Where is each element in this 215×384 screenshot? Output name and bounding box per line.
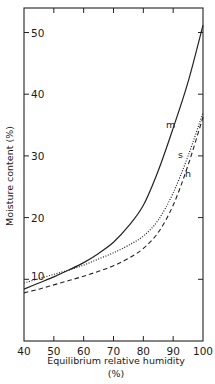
- labels: msh: [166, 119, 191, 179]
- y-tick-label: 20: [31, 212, 44, 224]
- series-label-m: m: [166, 119, 175, 130]
- y-tick-label: 30: [31, 150, 44, 162]
- y-axis-label: Moisture content (%): [4, 126, 15, 226]
- y-tick-label: 40: [31, 88, 44, 100]
- axis-ticks: 4050607080901002030405010: [17, 8, 213, 357]
- plot-frame: [24, 8, 203, 341]
- series-label-s: s: [178, 149, 183, 160]
- series-label-h: h: [185, 168, 191, 179]
- curves: [24, 25, 203, 293]
- y-tick-label: 50: [31, 27, 44, 39]
- x-tick-label: 40: [17, 345, 30, 357]
- moisture-chart: 4050607080901002030405010 msh Equilibriu…: [0, 0, 215, 384]
- y-tick-label-10: 10: [31, 270, 44, 282]
- curve-m: [24, 25, 203, 289]
- x-axis-unit: (%): [108, 368, 124, 379]
- plot-border: [24, 8, 203, 341]
- x-tick-label: 100: [193, 345, 213, 357]
- curve-h: [24, 117, 203, 293]
- x-axis-label: Equilibrium relative humidity: [47, 355, 185, 366]
